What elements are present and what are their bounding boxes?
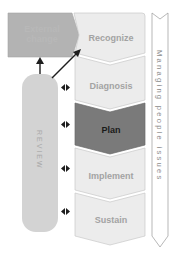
double-arrow-icon — [61, 121, 70, 128]
stage-plan-label: Plan — [78, 125, 144, 135]
external-change-label: External change — [10, 24, 74, 44]
review-label: REVIEW — [36, 130, 43, 170]
stage-diagnosis-label: Diagnosis — [78, 81, 144, 91]
arrow-up-to-external — [36, 57, 44, 64]
external-line-2: change — [10, 34, 74, 44]
double-arrow-icon — [61, 84, 70, 91]
stage-implement-label: Implement — [78, 171, 144, 181]
double-arrow-icon — [61, 165, 70, 172]
diagram: External change Recognize Diagnosis Plan… — [0, 0, 180, 254]
stage-recognize-label: Recognize — [78, 33, 144, 43]
external-line-1: External — [10, 24, 74, 34]
stage-sustain-label: Sustain — [78, 215, 144, 225]
managing-people-issues-label: Managing people issues — [155, 50, 164, 182]
double-arrow-icon — [61, 208, 70, 215]
